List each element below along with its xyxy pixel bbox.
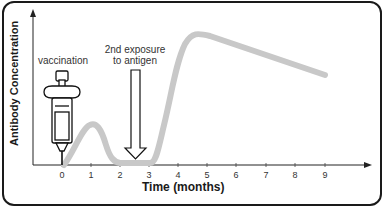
x-tick-label: 9	[318, 170, 332, 180]
exposure-label-line1: 2nd exposure	[99, 44, 171, 55]
down-arrow-icon	[125, 70, 146, 159]
exposure-label: 2nd exposure to antigen	[99, 44, 171, 66]
y-axis-label: Antibody Concentration	[8, 26, 20, 146]
x-tick-label: 1	[84, 170, 98, 180]
x-tick-label: 7	[259, 170, 273, 180]
x-tick-label: 6	[229, 170, 243, 180]
x-tick-label: 4	[171, 170, 185, 180]
vaccination-label: vaccination	[38, 55, 88, 66]
exposure-label-line2: to antigen	[99, 55, 171, 66]
x-tick-label: 2	[113, 170, 127, 180]
x-tick-label: 3	[142, 170, 156, 180]
x-axis-label: Time (months)	[142, 180, 224, 194]
x-axis-arrow-icon	[364, 162, 372, 168]
y-axis-arrow-icon	[30, 9, 36, 17]
x-tick-label: 5	[200, 170, 214, 180]
x-tick-label: 0	[55, 170, 69, 180]
x-tick-label: 8	[288, 170, 302, 180]
